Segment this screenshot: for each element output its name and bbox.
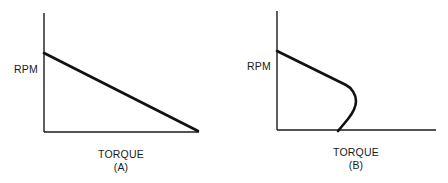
diagram-b [277,11,436,131]
diagram-b-speed-torque-curve [277,51,356,131]
diagram-a [44,13,199,132]
diagram-b-x-axis-label: TORQUE [331,146,381,159]
diagram-b-caption: (B) [331,159,381,172]
diagram-a-speed-torque-curve [44,53,198,131]
diagram-a-y-axis-label: RPM [14,63,38,75]
diagram-a-x-axis-label: TORQUE [96,148,146,161]
diagram-a-caption: (A) [96,161,146,174]
diagram-b-y-axis-label: RPM [247,60,271,72]
